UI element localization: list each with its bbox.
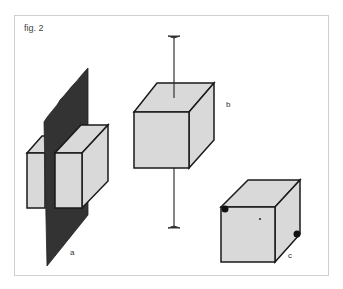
figure-diagram (0, 0, 343, 289)
part-b-cube (134, 83, 214, 168)
label-b: b (226, 100, 230, 109)
label-c: c (288, 251, 292, 260)
corner-marker-back-right (294, 231, 301, 238)
corner-marker-top-left (222, 206, 229, 213)
center-point (259, 218, 261, 220)
part-c-cube (221, 180, 301, 262)
label-a: a (70, 248, 74, 257)
